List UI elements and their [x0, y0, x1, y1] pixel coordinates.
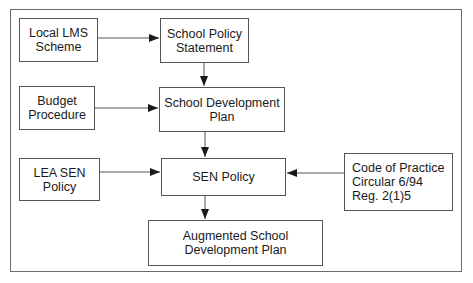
edges-layer: [0, 0, 473, 283]
